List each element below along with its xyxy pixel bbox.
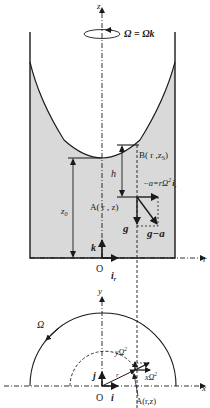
omega-rotation-arrow: [46, 328, 59, 340]
unit-i-label: i: [111, 392, 114, 403]
gravity-label: g: [122, 222, 129, 234]
effective-gravity-label: g−a: [146, 227, 165, 239]
h-arrow-top: [119, 145, 125, 152]
h-label: h: [111, 168, 116, 179]
bottom-panel: x y Ω j O i r yΩ2 xΩ2 A(r,z): [4, 286, 206, 406]
fluid-region: [30, 32, 175, 258]
x-component-label: xΩ2: [144, 371, 157, 382]
y-axis-label: y: [97, 286, 102, 296]
top-panel: z Ω = Ωk r k O ir z0 h B( r ,zS) −a=: [30, 1, 207, 408]
y-component-label: yΩ2: [114, 346, 127, 357]
x-axis-label: x: [201, 383, 206, 393]
orbit-circle-dashed: [70, 351, 136, 386]
omega-label: Ω: [37, 319, 44, 330]
r-axis-label: r: [203, 254, 207, 264]
origin-label-bottom: O: [96, 392, 103, 403]
point-a-label: A( r , z): [90, 202, 119, 212]
origin-label: O: [96, 263, 103, 274]
unit-j-label: j: [91, 370, 96, 381]
rotation-label: Ω = Ωk: [124, 28, 155, 39]
point-a-label-bottom: A(r,z): [136, 396, 156, 406]
accel-label: −a=rΩ2ir: [143, 177, 177, 189]
unit-k-label: k: [91, 242, 96, 253]
unit-ir-label: ir: [111, 270, 117, 282]
rotating-container-diagram: z Ω = Ωk r k O ir z0 h B( r ,zS) −a=: [0, 0, 210, 408]
z-axis-label: z: [96, 1, 101, 11]
radius-label: r: [116, 371, 119, 379]
